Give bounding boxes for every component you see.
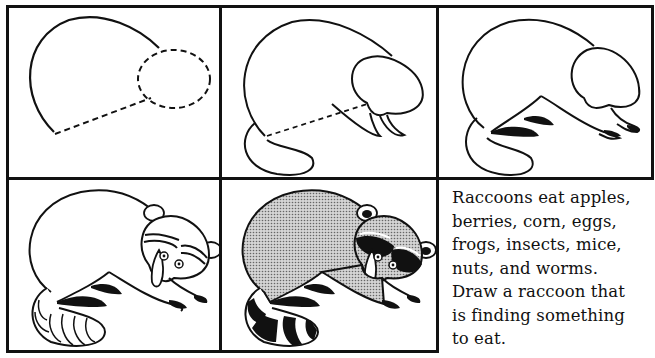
step-4-drawing <box>9 180 219 350</box>
step-4-panel <box>6 177 222 353</box>
step-1-drawing <box>9 8 219 177</box>
step-2-panel <box>219 5 439 180</box>
caption-line: berries, corn, eggs, <box>452 210 652 234</box>
step-3-drawing <box>439 8 651 177</box>
step-1-panel <box>6 5 222 180</box>
step-2-drawing <box>222 8 436 177</box>
step-5-drawing <box>222 180 436 350</box>
caption-line: frogs, insects, mice, <box>452 233 652 257</box>
caption-line: is finding something <box>452 304 652 328</box>
caption-line: Raccoons eat apples, <box>452 186 652 210</box>
step-5-panel <box>219 177 439 353</box>
caption-line: to eat. <box>452 327 652 351</box>
caption-line: nuts, and worms. <box>452 257 652 281</box>
step-3-panel <box>436 5 654 180</box>
instruction-caption: Raccoons eat apples, berries, corn, eggs… <box>452 186 652 351</box>
caption-line: Draw a raccoon that <box>452 280 652 304</box>
